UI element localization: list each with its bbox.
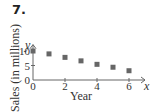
data-point bbox=[95, 62, 100, 67]
data-point bbox=[111, 65, 116, 70]
data-points bbox=[31, 49, 132, 74]
data-point bbox=[47, 51, 52, 56]
svg-text:5: 5 bbox=[25, 60, 31, 72]
svg-text:0: 0 bbox=[30, 80, 36, 92]
data-point bbox=[63, 55, 68, 60]
svg-text:x: x bbox=[143, 79, 150, 93]
svg-text:0: 0 bbox=[25, 74, 31, 86]
axes: xy02460510 bbox=[19, 38, 150, 93]
svg-text:2: 2 bbox=[62, 80, 68, 92]
data-point bbox=[31, 49, 36, 54]
y-axis-label: Sales (in millions) bbox=[8, 24, 22, 112]
data-point bbox=[79, 58, 84, 63]
svg-text:6: 6 bbox=[126, 80, 132, 92]
data-point bbox=[127, 68, 132, 73]
svg-text:4: 4 bbox=[94, 80, 100, 92]
svg-text:10: 10 bbox=[19, 45, 31, 57]
scatter-chart: Sales (in millions) xy02460510 Year bbox=[0, 0, 154, 112]
x-axis-label: Year bbox=[70, 89, 92, 103]
svg-text:Sales (in millions): Sales (in millions) bbox=[8, 24, 22, 112]
